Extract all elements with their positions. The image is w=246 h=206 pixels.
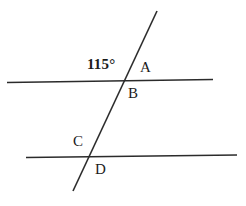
angle-label-115: 115° [87, 57, 115, 72]
upper-parallel-line [7, 80, 213, 83]
geometry-figure [0, 0, 246, 206]
geometry-diagram: 115° A B C D [0, 0, 246, 206]
lower-parallel-line [26, 155, 237, 158]
vertex-label-c: C [73, 134, 83, 149]
vertex-label-d: D [95, 162, 106, 177]
vertex-label-a: A [140, 60, 151, 75]
vertex-label-b: B [128, 86, 138, 101]
transversal-line [73, 11, 157, 191]
